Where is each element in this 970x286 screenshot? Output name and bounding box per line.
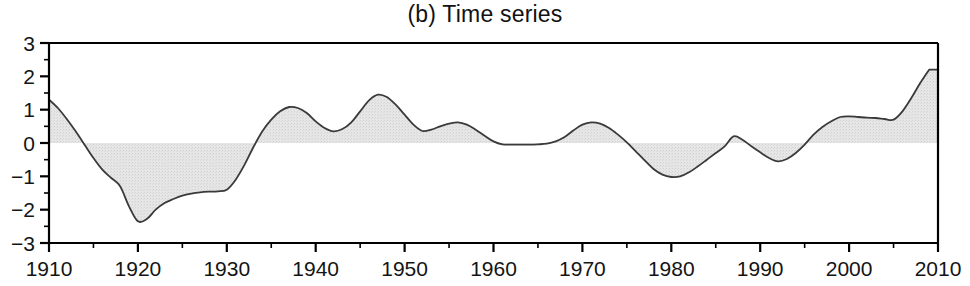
x-tick-label: 1920 (115, 257, 162, 280)
x-tick-label: 1990 (737, 257, 784, 280)
x-tick-label: 1960 (470, 257, 517, 280)
x-tick-label: 2000 (826, 257, 873, 280)
time-series-chart: 3210−1−2−3191019201930194019501960197019… (0, 0, 970, 286)
y-tick-label: 1 (23, 98, 35, 121)
y-tick-label: 0 (23, 132, 35, 155)
x-tick-label: 1910 (26, 257, 73, 280)
y-tick-label: 3 (23, 32, 35, 55)
x-tick-label: 2010 (915, 257, 962, 280)
x-tick-label: 1930 (203, 257, 250, 280)
y-tick-label: −2 (11, 198, 35, 221)
x-tick-label: 1980 (648, 257, 695, 280)
y-tick-label: 2 (23, 65, 35, 88)
y-tick-label: −3 (11, 232, 35, 255)
y-tick-label: −1 (11, 165, 35, 188)
figure-panel: (b) Time series 3210−1−2−319101920193019… (0, 0, 970, 286)
x-tick-label: 1950 (381, 257, 428, 280)
x-tick-label: 1940 (292, 257, 339, 280)
x-tick-label: 1970 (559, 257, 606, 280)
